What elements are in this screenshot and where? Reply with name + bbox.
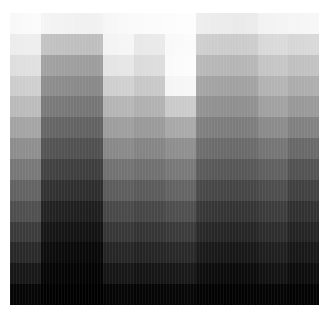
heatmap-plot-area (10, 13, 320, 305)
heatmap-cell (316, 180, 319, 201)
heatmap-row (10, 76, 320, 97)
heatmap-row (10, 284, 320, 305)
heatmap-row (10, 34, 320, 55)
heatmap-cell (316, 96, 319, 117)
heatmap-cell (316, 201, 319, 222)
heatmap-cell (316, 242, 319, 263)
heatmap-cell (316, 13, 319, 34)
heatmap-row (10, 96, 320, 117)
heatmap-row (10, 222, 320, 243)
heatmap-row (10, 159, 320, 180)
heatmap-cell (316, 284, 319, 305)
heatmap-row (10, 180, 320, 201)
heatmap-cell (316, 159, 319, 180)
heatmap-figure (0, 0, 330, 318)
heatmap-row (10, 138, 320, 159)
heatmap-cell (316, 76, 319, 97)
heatmap-cell (316, 55, 319, 76)
heatmap-row (10, 117, 320, 138)
heatmap-cell (316, 138, 319, 159)
heatmap-cell (316, 117, 319, 138)
heatmap-cell (316, 263, 319, 284)
heatmap-cell (316, 34, 319, 55)
heatmap-row (10, 201, 320, 222)
heatmap-row (10, 242, 320, 263)
heatmap-row (10, 55, 320, 76)
heatmap-row (10, 13, 320, 34)
heatmap-row (10, 263, 320, 284)
heatmap-cell (316, 222, 319, 243)
